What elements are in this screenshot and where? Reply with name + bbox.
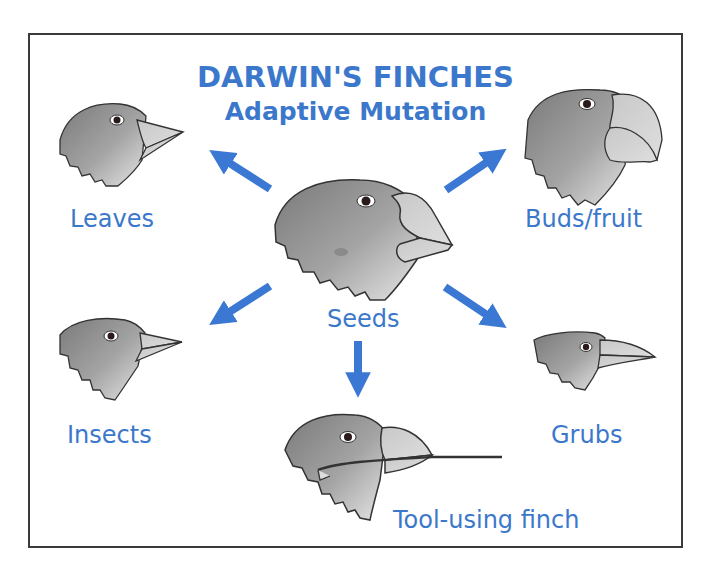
arrow-up-left-icon [220,157,270,189]
finch-head-grubs-icon [534,332,655,390]
label-leaves: Leaves [70,205,154,233]
finch-head-leaves-icon [60,104,183,186]
finch-head-budsfruit-icon [525,90,662,205]
diagram-graphics [0,0,711,577]
arrow-up-right-icon [446,156,496,190]
label-tool-using-finch: Tool-using finch [393,506,579,534]
arrow-down-right-icon [445,287,496,321]
arrow-down-left-icon [220,286,270,318]
label-buds-fruit: Buds/fruit [525,205,642,233]
finch-head-tool-using-icon [285,414,502,520]
label-insects: Insects [67,421,152,449]
finch-head-seeds-icon [275,180,452,300]
label-seeds: Seeds [327,305,400,333]
label-grubs: Grubs [551,421,622,449]
finch-head-insects-icon [60,319,182,400]
